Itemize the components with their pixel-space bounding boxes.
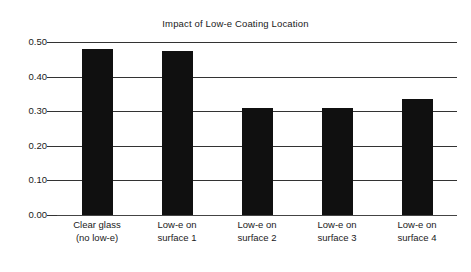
y-tick-label: 0.30 <box>5 106 47 116</box>
bar-chart: Impact of Low-e Coating Location Center … <box>0 0 471 272</box>
y-tick-mark <box>47 111 57 112</box>
gridline-0.00 <box>57 215 457 216</box>
x-category-label-line: surface 3 <box>297 232 377 245</box>
bar <box>322 108 353 215</box>
bar <box>402 99 433 215</box>
y-axis-tick-labels: 0.000.100.200.300.400.50 <box>0 42 47 215</box>
x-category-label-line: surface 2 <box>217 232 297 245</box>
y-tick-mark <box>47 77 57 78</box>
x-axis-tick-labels: Clear glass(no low-e)Low-e onsurface 1Lo… <box>57 219 457 259</box>
x-category-label: Low-e onsurface 4 <box>377 219 457 244</box>
x-category-label-line: surface 1 <box>137 232 217 245</box>
x-category-label-line: Low-e on <box>217 219 297 232</box>
bar <box>242 108 273 215</box>
x-category-label-line: surface 4 <box>377 232 457 245</box>
bar <box>162 51 193 215</box>
x-category-label: Low-e onsurface 1 <box>137 219 217 244</box>
x-category-label: Clear glass(no low-e) <box>57 219 137 244</box>
chart-title: Impact of Low-e Coating Location <box>0 18 471 29</box>
y-tick-label: 0.20 <box>5 141 47 151</box>
gridline-0.50 <box>57 42 457 43</box>
x-category-label-line: Low-e on <box>137 219 217 232</box>
gridline-0.40 <box>57 77 457 78</box>
y-tick-mark <box>47 42 57 43</box>
x-category-label-line: Clear glass <box>57 219 137 232</box>
y-tick-mark <box>47 146 57 147</box>
x-category-label-line: Low-e on <box>297 219 377 232</box>
y-tick-label: 0.00 <box>5 210 47 220</box>
x-category-label-line: Low-e on <box>377 219 457 232</box>
y-tick-mark <box>47 215 57 216</box>
y-tick-label: 0.50 <box>5 37 47 47</box>
y-tick-mark <box>47 180 57 181</box>
x-category-label-line: (no low-e) <box>57 232 137 245</box>
y-tick-label: 0.40 <box>5 72 47 82</box>
x-category-label: Low-e onsurface 2 <box>217 219 297 244</box>
plot-area <box>57 42 457 215</box>
x-category-label: Low-e onsurface 3 <box>297 219 377 244</box>
y-tick-label: 0.10 <box>5 175 47 185</box>
bar <box>82 49 113 215</box>
